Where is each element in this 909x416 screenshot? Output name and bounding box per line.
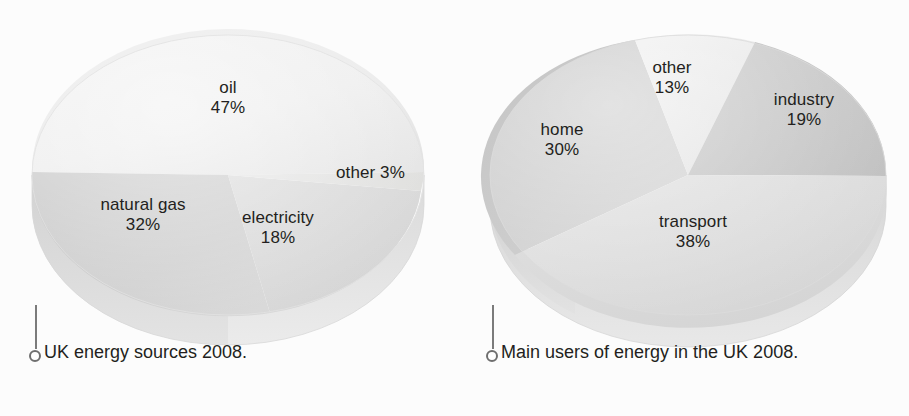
- slice-label-other-name: other: [652, 58, 691, 77]
- caption-text-right: Main users of energy in the UK 2008.: [501, 342, 798, 363]
- figure-uk-energy-users: other 13% industry 19% home 30% transpor…: [455, 0, 909, 416]
- slice-label-transport-name: transport: [659, 212, 727, 231]
- figure-uk-energy-sources: oil 47% natural gas 32% electricity 18% …: [0, 0, 455, 416]
- slice-label-other-value: 13%: [617, 78, 727, 98]
- slice-label-industry-name: industry: [774, 90, 834, 109]
- slice-label-electricity-name: electricity: [242, 208, 314, 227]
- slice-label-oil-name: oil: [219, 78, 236, 97]
- slice-label-industry: industry 19%: [749, 90, 859, 130]
- caption-stem: [492, 305, 494, 349]
- slice-label-other-text: other 3%: [336, 163, 405, 182]
- slice-label-oil: oil 47%: [178, 78, 278, 118]
- caption-dot-icon: [29, 350, 41, 362]
- slice-label-electricity: electricity 18%: [218, 208, 338, 248]
- caption-dot-icon: [486, 350, 498, 362]
- caption-uk-energy-users: Main users of energy in the UK 2008.: [485, 305, 798, 363]
- slice-label-transport-value: 38%: [633, 232, 753, 252]
- slice-label-oil-value: 47%: [178, 98, 278, 118]
- slice-label-home-value: 30%: [507, 140, 617, 160]
- caption-marker-icon: [28, 305, 44, 363]
- slice-label-home: home 30%: [507, 120, 617, 160]
- slice-label-industry-value: 19%: [749, 110, 859, 130]
- slice-label-electricity-value: 18%: [218, 228, 338, 248]
- caption-uk-energy-sources: UK energy sources 2008.: [28, 305, 247, 363]
- slice-label-other: other 13%: [617, 58, 727, 98]
- caption-stem: [35, 305, 37, 349]
- slice-label-natural-gas: natural gas 32%: [78, 195, 208, 235]
- slice-label-home-name: home: [541, 120, 584, 139]
- caption-marker-icon: [485, 305, 501, 363]
- slice-label-natural-gas-name: natural gas: [100, 195, 185, 214]
- caption-text-left: UK energy sources 2008.: [44, 342, 247, 363]
- slice-label-transport: transport 38%: [633, 212, 753, 252]
- slice-label-natural-gas-value: 32%: [78, 215, 208, 235]
- slice-label-other: other 3%: [336, 163, 446, 183]
